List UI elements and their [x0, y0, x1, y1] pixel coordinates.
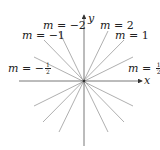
label-m-1: m = 1 [115, 30, 149, 41]
y-axis-label: y [88, 13, 94, 24]
fraction-half: 12 [45, 62, 51, 75]
label-m-neg-half: m = −12 [8, 62, 51, 75]
x-axis-label: x [144, 75, 150, 86]
fraction-half: 12 [156, 62, 160, 75]
origin-point [83, 80, 86, 83]
label-m-half: m = 12 [128, 62, 160, 75]
label-m-neg1: m = −1 [22, 30, 65, 41]
